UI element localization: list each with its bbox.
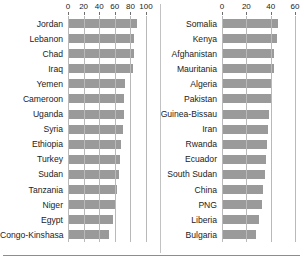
bar-track xyxy=(222,31,303,46)
bar-category-label: China xyxy=(152,185,222,195)
right-panel: 0204060 SomaliaKenyaAfghanistanMauritani… xyxy=(152,0,303,248)
axis-tick-mark xyxy=(222,12,223,15)
axis-tick-label: 0 xyxy=(66,2,70,11)
bar-row: China xyxy=(152,182,303,197)
bar-row: Yemen xyxy=(0,76,152,91)
bar-row: Lebanon xyxy=(0,31,152,46)
bar-row: Liberia xyxy=(152,212,303,227)
bar-category-label: Liberia xyxy=(152,215,222,225)
bar-category-label: Syria xyxy=(0,124,68,134)
bar xyxy=(68,230,109,239)
bar-row: Somalia xyxy=(152,16,303,31)
bar-category-label: Ethiopia xyxy=(0,139,68,149)
bar-category-label: Pakistan xyxy=(152,94,222,104)
bar-category-label: Somalia xyxy=(152,19,222,29)
right-panel-rows: SomaliaKenyaAfghanistanMauritaniaAlgeria… xyxy=(152,16,303,242)
bar-track xyxy=(68,122,152,137)
bar-track xyxy=(222,227,303,242)
bar-row: Mauritania xyxy=(152,61,303,76)
bar xyxy=(222,64,274,73)
bar-category-label: Bulgaria xyxy=(152,230,222,240)
bar-category-label: Egypt xyxy=(0,215,68,225)
bar-row: Guinea-Bissau xyxy=(152,107,303,122)
bar xyxy=(222,215,259,224)
left-panel-axis: 020406080100 xyxy=(0,0,152,16)
bar-row: Jordan xyxy=(0,16,152,31)
right-panel-axis: 0204060 xyxy=(152,0,303,16)
bar-row: Iraq xyxy=(0,61,152,76)
bar-track xyxy=(222,152,303,167)
bar-category-label: Ecuador xyxy=(152,154,222,164)
bar-track xyxy=(222,107,303,122)
bar-track xyxy=(68,152,152,167)
bar-track xyxy=(68,197,152,212)
bar xyxy=(222,110,269,119)
bar-track xyxy=(222,182,303,197)
bar-row: Bulgaria xyxy=(152,227,303,242)
bar xyxy=(222,170,265,179)
bar-row: Egypt xyxy=(0,212,152,227)
bar xyxy=(68,110,124,119)
bar-row: Chad xyxy=(0,46,152,61)
axis-tick-label: 40 xyxy=(95,2,104,11)
bar-row: Congo-Kinshasa xyxy=(0,227,152,242)
bar-row: Tanzania xyxy=(0,182,152,197)
bar-category-label: Yemen xyxy=(0,79,68,89)
bar-row: Afghanistan xyxy=(152,46,303,61)
bar xyxy=(68,215,113,224)
bar xyxy=(68,19,137,28)
axis-tick-label: 0 xyxy=(220,2,224,11)
bar-row: Rwanda xyxy=(152,137,303,152)
left-panel: 020406080100 JordanLebanonChadIraqYemenC… xyxy=(0,0,152,248)
bar xyxy=(68,200,115,209)
bar-track xyxy=(68,76,152,91)
bar-track xyxy=(68,46,152,61)
bar xyxy=(68,170,119,179)
bar-row: Sudan xyxy=(0,167,152,182)
bar-chart-figure: 020406080100 JordanLebanonChadIraqYemenC… xyxy=(0,0,303,263)
bar-track xyxy=(222,76,303,91)
bar-category-label: Lebanon xyxy=(0,34,68,44)
axis-tick-label: 60 xyxy=(110,2,119,11)
bar-track xyxy=(68,61,152,76)
bar xyxy=(222,49,274,58)
bar xyxy=(68,125,123,134)
bar-category-label: Guinea-Bissau xyxy=(152,109,222,119)
bar xyxy=(68,155,120,164)
axis-tick-label: 100 xyxy=(139,2,152,11)
axis-tick-label: 20 xyxy=(242,2,251,11)
bar xyxy=(222,230,256,239)
axis-tick-mark xyxy=(68,12,69,15)
bar-category-label: Jordan xyxy=(0,19,68,29)
bar xyxy=(222,200,262,209)
axis-tick-mark xyxy=(146,12,147,15)
bar-track xyxy=(68,16,152,31)
bar xyxy=(222,19,278,28)
bar xyxy=(68,79,125,88)
bar-category-label: Iran xyxy=(152,124,222,134)
bar-track xyxy=(68,227,152,242)
bar-row: Pakistan xyxy=(152,91,303,106)
bar-category-label: Algeria xyxy=(152,79,222,89)
bar-track xyxy=(68,107,152,122)
bar-track xyxy=(68,91,152,106)
bar-track xyxy=(68,137,152,152)
bar-track xyxy=(222,197,303,212)
bar-category-label: Afghanistan xyxy=(152,49,222,59)
bar-row: South Sudan xyxy=(152,167,303,182)
bar-track xyxy=(68,31,152,46)
bar-category-label: Turkey xyxy=(0,154,68,164)
bar xyxy=(222,94,271,103)
bar-row: Ecuador xyxy=(152,152,303,167)
bar xyxy=(222,125,268,134)
bar-track xyxy=(68,167,152,182)
panel-divider xyxy=(160,4,161,253)
bar-category-label: Kenya xyxy=(152,34,222,44)
axis-tick-mark xyxy=(99,12,100,15)
bar-track xyxy=(222,167,303,182)
bar xyxy=(68,94,124,103)
bar-track xyxy=(222,61,303,76)
bar-track xyxy=(222,16,303,31)
left-panel-rows: JordanLebanonChadIraqYemenCameroonUganda… xyxy=(0,16,152,242)
bar-category-label: Chad xyxy=(0,49,68,59)
